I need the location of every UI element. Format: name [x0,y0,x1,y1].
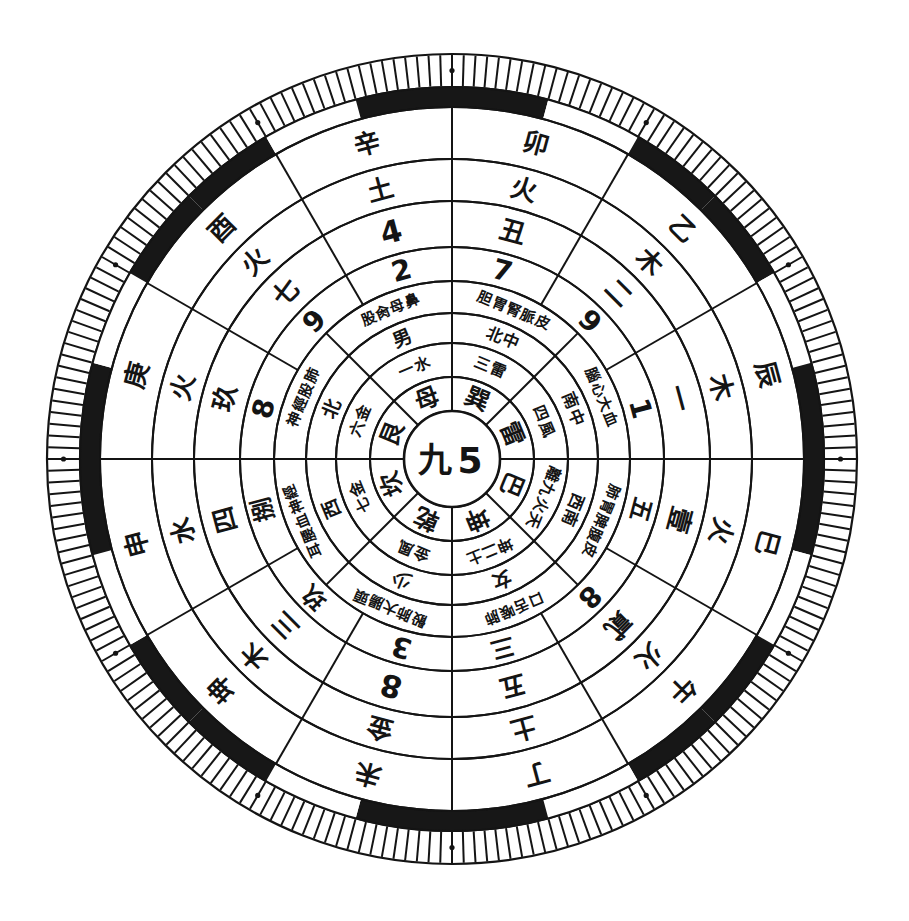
sector-glyph: 丁 [520,756,553,792]
sector-glyph: 木 [703,369,739,403]
sector-numeral: 1 [622,395,659,422]
center-arabic-numeral: 5 [457,440,482,481]
sector-numeral: 8 [376,666,406,705]
sector-glyph: 火 [508,172,541,208]
sector-glyph: 木 [235,636,275,676]
sector-numeral: 3 [388,629,415,666]
sector-glyph: 土 [508,711,541,747]
sector-numeral: 4 [376,212,406,251]
sector-glyph: 乙 [663,209,703,249]
sector-glyph: 丑 [496,214,529,250]
sector-glyph: 坤 [460,502,493,537]
sector-glyph: 金 [362,710,397,746]
sector-glyph: 四 [207,503,243,536]
sector-glyph: 少 [389,566,416,594]
sector-glyph: 申 [119,527,155,560]
sector-glyph: 北 [317,396,345,422]
sector-glyph: 五 [496,668,529,704]
center-chinese-numeral: 九 [418,440,452,480]
sector-glyph: 辰 [749,358,785,391]
sector-glyph: 酉 [202,209,242,249]
sector-glyph: 巳 [749,527,785,560]
sector-glyph: 火 [235,242,275,282]
sector-glyph: 火 [629,636,669,676]
sector-glyph: 卯 [520,126,553,162]
luopan-figure: 卯乙辰巳午丁未坤申庚酉辛火木木火火土金木水火火土丑二一壹貳五8三四玖七4791五… [0,0,909,921]
sector-glyph: 一 [661,382,697,415]
sector-glyph: 辛 [351,126,384,162]
sector-glyph: 巴 [495,467,530,500]
sector-glyph: 男 [389,324,415,352]
sector-glyph: 未 [351,756,384,792]
sector-glyph: 壹 [661,503,697,536]
sector-glyph: 女 [489,566,515,594]
sector-glyph: 火 [165,370,201,403]
sector-numeral: 2 [388,252,415,289]
sector-glyph: 雷 [495,418,530,451]
sector-glyph: 乾 [411,502,444,537]
sector-glyph: 五 [624,494,657,524]
sector-glyph: 西 [317,496,345,522]
sector-glyph: 火 [704,515,740,548]
sector-glyph: 三 [266,605,306,645]
sector-glyph: 捌 [247,494,280,524]
sector-glyph: 巽 [460,381,493,416]
luopan-wheel-svg: 卯乙辰巳午丁未坤申庚酉辛火木木火火土金木水火火土丑二一壹貳五8三四玖七4791五… [0,0,909,921]
sector-glyph: 坤 [202,670,242,710]
sector-glyph: 母 [411,381,444,416]
sector-glyph: 水 [164,514,200,548]
sector-glyph: 二 [598,273,638,313]
sector-glyph: 玖 [207,382,243,415]
sector-glyph: 七 [266,273,306,313]
sector-numeral: 7 [489,252,516,289]
center-disc: 九5 [404,411,500,507]
sector-glyph: 貳 [598,605,638,645]
sector-glyph: 午 [663,670,703,710]
sector-glyph: 木 [629,241,669,281]
sector-glyph: 三 [487,631,517,664]
sector-glyph: 庚 [119,358,155,391]
sector-numeral: 8 [245,395,282,422]
sector-glyph: 土 [363,172,396,208]
sector-glyph: 坎 [374,467,409,500]
